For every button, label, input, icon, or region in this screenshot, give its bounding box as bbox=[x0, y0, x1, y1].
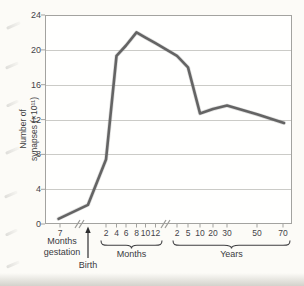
gestation-label-line2: gestation bbox=[44, 247, 81, 258]
months-group-label: Months bbox=[117, 249, 147, 260]
y-tick-marks bbox=[41, 15, 45, 224]
page-shadow bbox=[0, 273, 304, 286]
gestation-label-line1: Months bbox=[44, 236, 81, 247]
birth-label: Birth bbox=[79, 260, 98, 271]
synapse-line bbox=[59, 32, 285, 218]
months-brace bbox=[101, 241, 162, 249]
synaptic-density-figure: 24 20 16 12 8 4 0 Number of synapses (×1… bbox=[0, 0, 304, 286]
gestation-label: Months gestation bbox=[44, 236, 81, 258]
birth-arrow-icon bbox=[85, 227, 90, 259]
years-brace bbox=[173, 241, 290, 249]
x-tick-marks bbox=[60, 224, 283, 228]
years-group-label: Years bbox=[220, 249, 243, 260]
